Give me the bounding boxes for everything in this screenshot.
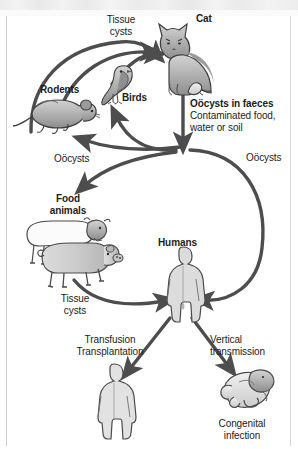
label-transfusion-transplantation: Transfusion Transplantation — [60, 334, 160, 357]
arrow-oocysts-to-birds — [116, 116, 176, 150]
label-vertical-transmission: Vertical transmission — [210, 334, 265, 357]
label-oocysts-right: Oöcysts — [246, 152, 281, 164]
label-rodents: Rodents — [40, 84, 79, 96]
label-contaminated-sources: Contaminated food, water or soil — [190, 110, 275, 133]
cat-illustration — [159, 24, 214, 95]
label-tissue-cysts-human: Tissue cysts — [52, 293, 98, 316]
label-food-animals: Food animals — [38, 193, 98, 216]
arrow-oocysts-to-food-animals — [84, 152, 176, 186]
label-congenital-infection: Congenital infection — [202, 418, 282, 441]
rodent-illustration — [13, 100, 100, 133]
label-tissue-cysts-top: Tissue cysts — [96, 14, 146, 37]
diagram-graphics — [0, 0, 298, 449]
arrow-oocysts-to-rodents — [84, 140, 180, 149]
diagram-canvas: Tissue cysts Cat Rodents Birds Oöcysts i… — [0, 0, 298, 449]
label-cat: Cat — [196, 13, 212, 25]
label-oocysts-left: Oöcysts — [54, 153, 89, 165]
food-animals-illustration — [27, 218, 123, 287]
label-humans: Humans — [158, 237, 197, 249]
human-illustration — [167, 247, 205, 322]
label-oocysts-in-faeces: Oöcysts in faeces — [190, 98, 273, 110]
recipient-human-illustration — [98, 364, 136, 439]
foetus-illustration — [221, 370, 274, 407]
label-birds: Birds — [122, 92, 147, 104]
